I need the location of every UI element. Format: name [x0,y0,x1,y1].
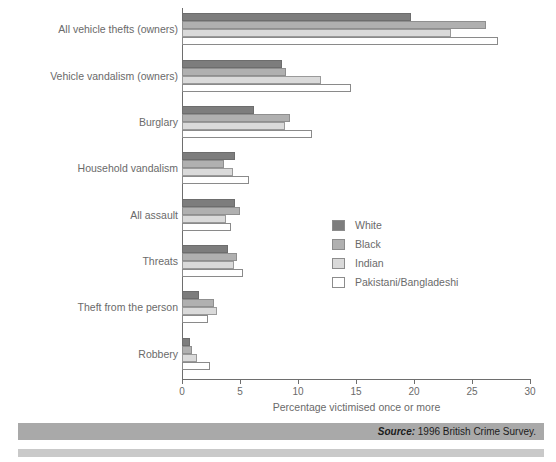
bar [182,168,233,176]
category-label: All vehicle thefts (owners) [3,23,178,35]
x-tick-label: 5 [237,386,243,397]
x-tick-label: 10 [292,386,303,397]
bar [182,253,237,261]
bar [182,223,231,231]
bar [182,68,286,76]
chart-figure: All vehicle thefts (owners)Vehicle vanda… [0,0,556,462]
x-tick [356,379,357,384]
legend-item: White [332,217,458,233]
bar [182,114,290,122]
bar [182,29,451,37]
legend-item: Black [332,236,458,252]
legend-label: Black [355,238,381,250]
legend-label: White [355,219,382,231]
bar [182,307,217,315]
category-label: Burglary [3,116,178,128]
bar [182,130,312,138]
category-label: All assault [3,209,178,221]
bar [182,176,249,184]
legend-label: Pakistani/Bangladeshi [355,276,458,288]
legend-label: Indian [355,257,384,269]
category-label: Threats [3,255,178,267]
bar [182,207,240,215]
bar [182,269,243,277]
legend: WhiteBlackIndianPakistani/Bangladeshi [332,217,458,293]
bar [182,215,226,223]
category-axis-labels: All vehicle thefts (owners)Vehicle vanda… [0,0,178,462]
bar [182,299,214,307]
source-value: 1996 British Crime Survey. [415,426,536,437]
x-tick-label: 20 [408,386,419,397]
bar [182,152,235,160]
x-tick-label: 0 [179,386,185,397]
bottom-band [18,449,544,457]
legend-item: Pakistani/Bangladeshi [332,274,458,290]
x-axis-title: Percentage victimised once or more [182,401,531,413]
bar [182,199,235,207]
x-tick-label: 15 [350,386,361,397]
x-tick [530,379,531,384]
bar [182,60,282,68]
legend-item: Indian [332,255,458,271]
bar [182,76,321,84]
legend-swatch [332,239,345,250]
bar [182,245,228,253]
legend-swatch [332,220,345,231]
bar [182,362,210,370]
x-tick [472,379,473,384]
category-label: Vehicle vandalism (owners) [3,70,178,82]
legend-swatch [332,258,345,269]
x-tick-label: 30 [524,386,535,397]
bar [182,122,285,130]
bar [182,13,411,21]
category-label: Robbery [3,348,178,360]
category-label: Household vandalism [3,162,178,174]
x-tick [182,379,183,384]
bar [182,315,208,323]
x-tick-label: 25 [466,386,477,397]
source-label: Source: [378,426,415,437]
x-tick [240,379,241,384]
bar [182,346,192,354]
bar [182,37,498,45]
bar [182,354,197,362]
source-text: Source: 1996 British Crime Survey. [378,423,536,440]
bar [182,338,190,346]
bar [182,261,234,269]
bar [182,160,224,168]
bar [182,106,254,114]
legend-swatch [332,277,345,288]
bar [182,21,486,29]
x-tick [414,379,415,384]
bar [182,291,199,299]
bar [182,84,351,92]
source-band: Source: 1996 British Crime Survey. [18,423,544,440]
category-label: Theft from the person [3,301,178,313]
x-tick [298,379,299,384]
